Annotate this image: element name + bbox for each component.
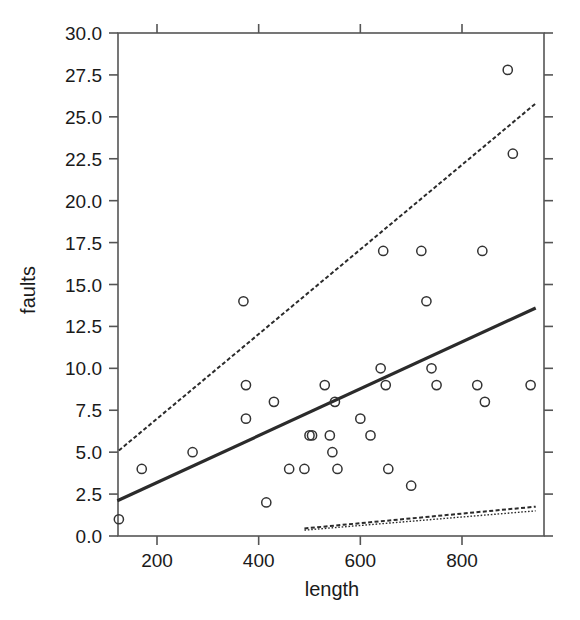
data-points — [114, 65, 535, 524]
y-tick-label: 5.0 — [76, 442, 102, 463]
y-tick-label: 7.5 — [76, 400, 102, 421]
data-point — [320, 381, 329, 390]
data-point — [300, 464, 309, 473]
data-point — [114, 515, 123, 524]
data-point — [503, 65, 512, 74]
y-tick-label: 12.5 — [65, 316, 102, 337]
x-tick-label: 800 — [446, 550, 478, 571]
data-point — [480, 397, 489, 406]
x-tick-label: 600 — [344, 550, 376, 571]
y-tick-label: 25.0 — [65, 107, 102, 128]
data-point — [384, 464, 393, 473]
data-point — [137, 464, 146, 473]
x-axis-ticks: 200400600800 — [141, 536, 478, 571]
scatter-plot: 200400600800 0.02.55.07.510.012.515.017.… — [0, 0, 580, 620]
data-point — [241, 381, 250, 390]
data-point — [366, 431, 375, 440]
data-point — [526, 381, 535, 390]
data-point — [422, 297, 431, 306]
chart-container: 200400600800 0.02.55.07.510.012.515.017.… — [0, 0, 580, 620]
data-point — [262, 498, 271, 507]
data-point — [427, 364, 436, 373]
data-point — [239, 297, 248, 306]
data-point — [356, 414, 365, 423]
data-point — [285, 464, 294, 473]
data-point — [325, 431, 334, 440]
y-tick-label: 0.0 — [76, 526, 102, 547]
fit-lines — [117, 103, 535, 530]
data-point — [376, 364, 385, 373]
y-tick-label: 22.5 — [65, 149, 102, 170]
right-axis-ticks — [544, 33, 553, 536]
y-tick-label: 20.0 — [65, 191, 102, 212]
data-point — [379, 246, 388, 255]
y-tick-label: 2.5 — [76, 484, 102, 505]
y-tick-label: 10.0 — [65, 358, 102, 379]
data-point — [241, 414, 250, 423]
data-point — [188, 448, 197, 457]
plot-frame — [118, 33, 544, 536]
y-tick-label: 30.0 — [65, 23, 102, 44]
data-point — [508, 149, 517, 158]
data-point — [333, 464, 342, 473]
data-point — [269, 397, 278, 406]
data-point — [407, 481, 416, 490]
data-point — [473, 381, 482, 390]
fit-line-dashed-lower-fit-a — [304, 507, 535, 529]
y-axis-ticks: 0.02.55.07.510.012.515.017.520.022.525.0… — [65, 23, 118, 547]
data-point — [328, 448, 337, 457]
top-axis-ticks — [157, 24, 462, 33]
data-point — [417, 246, 426, 255]
y-axis-title: faults — [17, 266, 39, 314]
data-point — [478, 246, 487, 255]
plot-box — [118, 33, 544, 536]
y-tick-label: 27.5 — [65, 65, 102, 86]
data-point — [432, 381, 441, 390]
fit-line-solid-fit — [117, 308, 535, 501]
y-tick-label: 15.0 — [65, 275, 102, 296]
x-tick-label: 200 — [141, 550, 173, 571]
data-point — [381, 381, 390, 390]
x-axis-title: length — [305, 578, 360, 600]
x-tick-label: 400 — [243, 550, 275, 571]
y-tick-label: 17.5 — [65, 233, 102, 254]
fit-line-dashed-upper-fit — [119, 103, 536, 450]
fit-line-dashed-lower-fit-b — [304, 511, 535, 530]
